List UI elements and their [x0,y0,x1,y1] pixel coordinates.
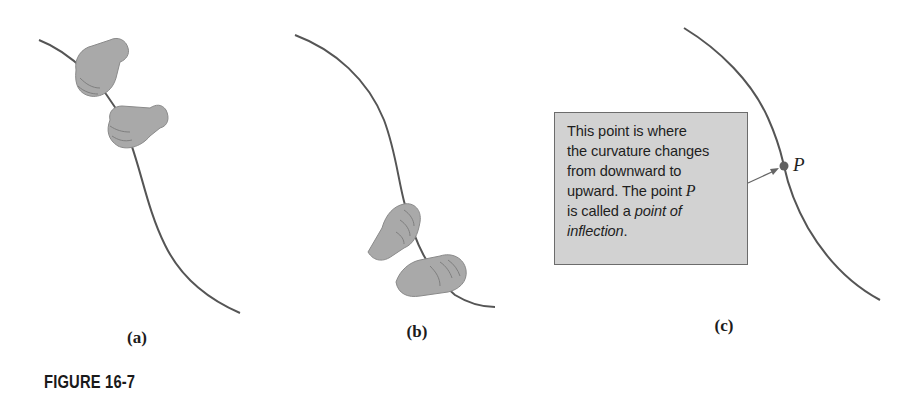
arrowhead-icon [770,168,779,175]
figure-caption: FIGURE 16-7 [44,372,135,393]
hand-icon-a-upper [76,38,129,96]
callout-line-3: from downward to [567,161,737,181]
panel-label-c: (c) [715,316,734,336]
callout-var-p: P [686,182,696,199]
callout-line-4: upward. The point P [567,181,737,201]
callout-term-inflection: inflection [567,223,624,239]
curve-a [39,40,240,313]
callout-line-4-text: upward. The point [567,183,686,199]
callout-line-2: the curvature changes [567,141,737,161]
panel-label-b: (b) [407,322,428,342]
point-p-label: P [793,154,805,176]
callout-line-5-text: is called a [567,203,635,219]
inflection-callout-box: This point is where the curvature change… [554,112,748,265]
hand-icon-a-lower [108,105,168,148]
panel-label-a: (a) [127,328,147,348]
callout-arrow [748,171,774,183]
callout-term-point-of: point of [635,203,682,219]
hand-icon-b-lower [396,255,466,297]
inflection-point-p [780,162,789,171]
callout-line-1: This point is where [567,121,737,141]
callout-line-6: inflection. [567,221,737,241]
hand-icon-b-upper [368,204,420,260]
callout-line-5: is called a point of [567,201,737,221]
callout-period: . [624,223,628,239]
